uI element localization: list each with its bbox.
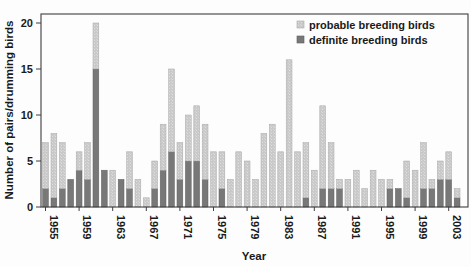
- x-tick-label: 1995: [384, 215, 396, 239]
- bar-probable: [345, 179, 351, 207]
- bar-probable: [185, 115, 191, 161]
- bar-probable: [110, 170, 116, 207]
- bar-definite: [185, 161, 191, 207]
- bar-definite: [387, 189, 393, 207]
- bar-definite: [68, 179, 74, 207]
- x-tick-label: 1963: [115, 215, 127, 239]
- bar-probable: [177, 143, 183, 180]
- x-tick-label: 1983: [283, 215, 295, 239]
- chart-figure: 0510152019551959196319671971197519791983…: [0, 0, 471, 267]
- bar-probable: [160, 124, 166, 170]
- bar-probable: [236, 152, 242, 207]
- bar-definite: [194, 161, 200, 207]
- bar-probable: [353, 170, 359, 207]
- x-tick-label: 2003: [451, 215, 463, 239]
- bar-probable: [261, 133, 267, 207]
- bar-definite: [404, 198, 410, 207]
- legend-swatch-probable-icon: [297, 21, 304, 28]
- bar-definite: [169, 152, 175, 207]
- bar-definite: [303, 198, 309, 207]
- bar-probable: [135, 179, 141, 207]
- bar-probable: [169, 69, 175, 152]
- bar-probable: [211, 152, 217, 207]
- x-tick-label: 1979: [249, 215, 261, 239]
- bar-probable: [43, 143, 49, 189]
- bar-probable: [253, 179, 259, 207]
- x-tick-label: 1967: [148, 215, 160, 239]
- bar-probable: [269, 124, 275, 207]
- bar-probable: [286, 60, 292, 207]
- bar-probable: [152, 161, 158, 189]
- bar-definite: [85, 179, 91, 207]
- bar-probable: [337, 179, 343, 188]
- legend-swatch-definite-icon: [297, 36, 304, 43]
- y-axis-title: Number of pairs/drumming birds: [3, 21, 15, 200]
- x-tick-label: 1999: [417, 215, 429, 239]
- x-axis-title: Year: [242, 250, 267, 262]
- bar-definite: [337, 189, 343, 207]
- bar-definite: [177, 179, 183, 207]
- bar-definite: [219, 189, 225, 207]
- bar-probable: [85, 143, 91, 180]
- bar-probable: [59, 143, 65, 189]
- bar-probable: [202, 124, 208, 179]
- bar-probable: [387, 179, 393, 188]
- bar-definite: [51, 198, 57, 207]
- bar-probable: [303, 143, 309, 198]
- bar-probable: [429, 179, 435, 188]
- x-tick-label: 1975: [216, 215, 228, 239]
- bar-probable: [421, 143, 427, 189]
- bar-probable: [278, 152, 284, 207]
- bar-definite: [429, 189, 435, 207]
- bar-definite: [59, 189, 65, 207]
- bar-probable: [76, 152, 82, 170]
- bar-definite: [421, 189, 427, 207]
- bar-probable: [437, 161, 443, 179]
- bar-probable: [446, 152, 452, 180]
- bar-definite: [76, 170, 82, 207]
- bar-definite: [328, 189, 334, 207]
- y-tick-label: 15: [21, 63, 33, 75]
- bar-definite: [202, 179, 208, 207]
- bar-definite: [43, 189, 49, 207]
- bar-probable: [244, 161, 250, 207]
- bar-definite: [160, 170, 166, 207]
- bar-probable: [143, 198, 149, 207]
- bar-probable: [311, 170, 317, 207]
- x-tick-label: 1991: [350, 215, 362, 239]
- bar-definite: [101, 170, 107, 207]
- bar-probable: [370, 170, 376, 207]
- bar-probable: [379, 179, 385, 207]
- bar-probable: [404, 161, 410, 198]
- bar-probable: [219, 152, 225, 189]
- x-tick-label: 1959: [81, 215, 93, 239]
- bar-definite: [320, 189, 326, 207]
- bar-probable: [295, 152, 301, 207]
- bar-definite: [152, 189, 158, 207]
- bar-probable: [412, 170, 418, 207]
- bar-definite: [118, 179, 124, 207]
- y-tick-label: 0: [27, 201, 33, 213]
- bar-probable: [454, 189, 460, 198]
- y-tick-label: 20: [21, 17, 33, 29]
- legend-label-definite: definite breeding birds: [309, 34, 428, 46]
- bar-probable: [362, 189, 368, 207]
- bar-probable: [227, 179, 233, 207]
- bar-definite: [437, 179, 443, 207]
- legend: probable breeding birds definite breedin…: [297, 19, 435, 46]
- bar-probable: [51, 133, 57, 197]
- bar-definite: [93, 69, 99, 207]
- x-tick-label: 1971: [182, 215, 194, 239]
- bar-probable: [194, 106, 200, 161]
- x-tick-label: 1955: [48, 215, 60, 239]
- chart-canvas: 0510152019551959196319671971197519791983…: [0, 0, 471, 267]
- bar-definite: [395, 189, 401, 207]
- bar-definite: [127, 189, 133, 207]
- x-tick-label: 1987: [316, 215, 328, 239]
- bar-probable: [93, 23, 99, 69]
- bar-probable: [127, 152, 133, 189]
- bar-probable: [320, 106, 326, 189]
- bars-layer: [43, 23, 460, 207]
- y-tick-label: 5: [27, 155, 33, 167]
- legend-label-probable: probable breeding birds: [309, 19, 435, 31]
